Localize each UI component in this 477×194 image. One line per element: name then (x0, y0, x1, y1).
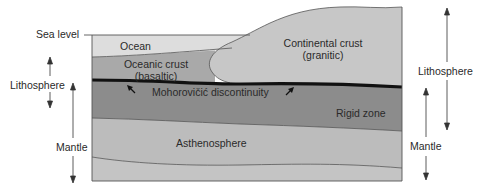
asthenosphere-label: Asthenosphere (176, 137, 247, 149)
oceanic-crust-label-line2: (basaltic) (116, 70, 196, 82)
left-mantle-label: Mantle (56, 141, 88, 153)
oceanic-crust-label: Oceanic crust (basaltic) (116, 58, 196, 82)
left-mantle-arrow (71, 83, 76, 183)
right-mantle-label: Mantle (410, 140, 442, 152)
continental-crust-label-line1: Continental crust (268, 37, 378, 49)
ocean-label: Ocean (120, 40, 151, 52)
right-lithosphere-label: Lithosphere (418, 65, 473, 77)
right-mantle-arrow (424, 88, 429, 180)
moho-label: Mohorovičić discontinuity (152, 86, 269, 98)
sea-level-label: Sea level (36, 28, 79, 40)
rigid-zone-label: Rigid zone (336, 107, 386, 119)
oceanic-crust-label-line1: Oceanic crust (116, 58, 196, 70)
continental-crust-label: Continental crust (granitic) (268, 37, 378, 61)
continental-crust-label-line2: (granitic) (268, 49, 378, 61)
left-lithosphere-label: Lithosphere (10, 79, 65, 91)
